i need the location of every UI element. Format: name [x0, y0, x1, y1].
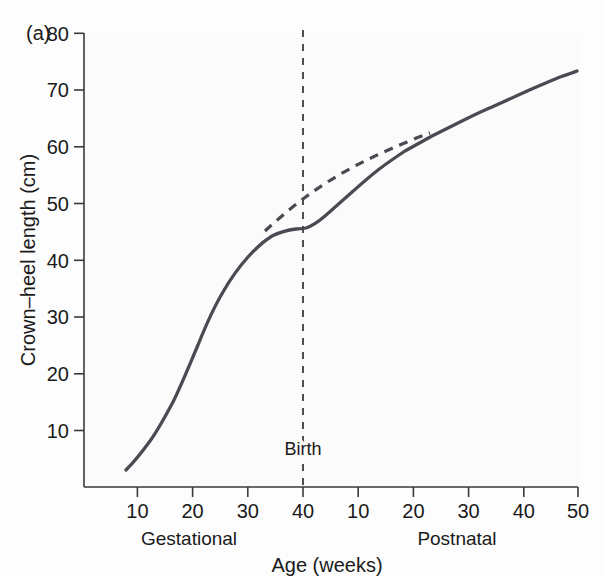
crown-heel-growth-chart: 80 70 60 50 40 30 20 10 10 20 30 40 [0, 0, 606, 576]
figure-panel-a: 80 70 60 50 40 30 20 10 10 20 30 40 [0, 0, 606, 576]
x-tick-label-post-30: 30 [457, 500, 479, 522]
x-axis-segment-gestational: Gestational [141, 528, 237, 549]
x-axis-ticks [137, 487, 578, 497]
x-axis-title: Age (weeks) [271, 554, 382, 576]
x-axis-segment-postnatal: Postnatal [417, 528, 496, 549]
x-tick-label-post-50: 50 [567, 500, 589, 522]
y-tick-label-60: 60 [47, 136, 69, 158]
y-tick-label-30: 30 [47, 306, 69, 328]
x-tick-label-post-20: 20 [402, 500, 424, 522]
x-tick-label-gest-40: 40 [292, 500, 314, 522]
x-tick-label-post-40: 40 [513, 500, 535, 522]
x-axis-tick-labels: 10 20 30 40 10 20 30 40 50 [126, 500, 589, 522]
x-tick-label-gest-20: 20 [181, 500, 203, 522]
y-axis-tick-labels: 80 70 60 50 40 30 20 10 [47, 23, 69, 442]
y-tick-label-40: 40 [47, 250, 69, 272]
y-tick-label-10: 10 [47, 420, 69, 442]
y-axis-ticks [74, 33, 84, 430]
y-tick-label-20: 20 [47, 363, 69, 385]
x-tick-label-gest-30: 30 [237, 500, 259, 522]
x-tick-label-post-10: 10 [347, 500, 369, 522]
y-tick-label-70: 70 [47, 79, 69, 101]
x-tick-label-gest-10: 10 [126, 500, 148, 522]
birth-annotation-label: Birth [284, 439, 321, 459]
y-axis-title: Crown–heel length (cm) [17, 154, 39, 366]
panel-label: (a) [26, 22, 50, 44]
y-tick-label-50: 50 [47, 193, 69, 215]
